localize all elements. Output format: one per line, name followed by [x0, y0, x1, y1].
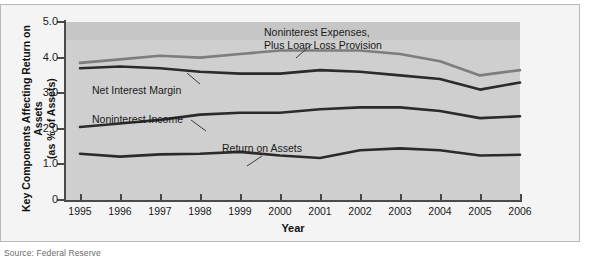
series-label-noninterest-expenses: Noninterest Expenses, Plus Loan Loss Pro… [264, 26, 382, 51]
series-label-noninterest-expenses-line2: Plus Loan Loss Provision [264, 39, 382, 51]
leader-line-return-on-assets [247, 156, 262, 166]
chart-figure: 01.02.03.04.05.0 19951996199719981999200… [0, 0, 592, 264]
series-label-net-interest-margin: Net Interest Margin [92, 84, 181, 97]
series-label-noninterest-expenses-line1: Noninterest Expenses, [264, 26, 370, 38]
leader-line-noninterest-income [191, 120, 206, 131]
source-note: Source: Federal Reserve [4, 248, 101, 258]
series-label-noninterest-income: Noninterest Income [92, 113, 183, 126]
leader-line-net-interest-margin [187, 73, 200, 84]
series-label-return-on-assets: Return on Assets [222, 142, 302, 155]
